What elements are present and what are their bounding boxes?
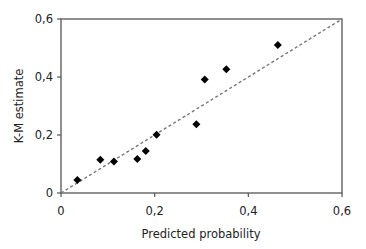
data-points [73, 41, 281, 184]
diamond-marker [192, 120, 200, 128]
diamond-marker [142, 147, 150, 155]
diamond-marker [73, 176, 81, 184]
diagonal-dashed-line [61, 19, 342, 193]
x-tick-label: 0,4 [239, 204, 257, 218]
x-tick-label: 0,6 [333, 204, 351, 218]
calibration-chart: 00,20,40,6 00,20,40,6 Predicted probabil… [0, 0, 366, 249]
y-axis-ticks: 00,20,40,6 [35, 12, 61, 200]
x-tick-label: 0,2 [146, 204, 164, 218]
x-axis-ticks: 00,20,40,6 [57, 193, 351, 218]
y-tick-label: 0,2 [35, 128, 53, 142]
y-tick-label: 0,4 [35, 70, 53, 84]
reference-line [61, 19, 342, 193]
x-tick-label: 0 [57, 204, 64, 218]
y-tick-label: 0 [46, 186, 53, 200]
diamond-marker [110, 157, 118, 165]
diamond-marker [96, 156, 104, 164]
diamond-marker [201, 76, 209, 84]
diamond-marker [133, 155, 141, 163]
diamond-marker [222, 65, 230, 73]
diamond-marker [274, 41, 282, 49]
y-tick-label: 0,6 [35, 12, 53, 26]
y-axis-title: K-M estimate [12, 69, 26, 144]
x-axis-title: Predicted probability [142, 227, 261, 241]
